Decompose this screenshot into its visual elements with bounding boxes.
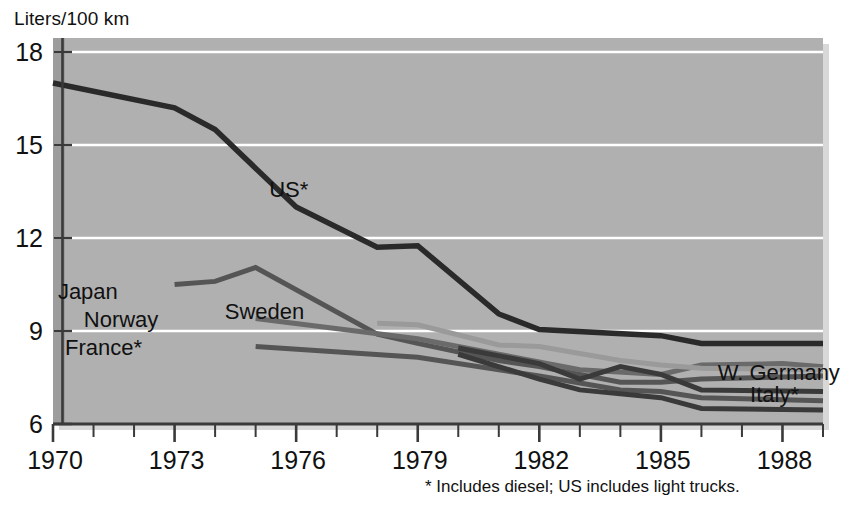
fuel-consumption-line-chart: 691215181970197319761979198219851988US*J… xyxy=(0,0,853,525)
series-label-france: France* xyxy=(65,335,142,360)
x-tick-labels: 1970197319761979198219851988 xyxy=(27,446,812,474)
series-label-sweden: Sweden xyxy=(225,299,305,324)
y-tick-label: 15 xyxy=(15,131,43,159)
chart-page: Liters/100 km 69121518197019731976197919… xyxy=(0,0,853,525)
y-tick-label: 9 xyxy=(29,317,43,345)
x-tick-label: 1988 xyxy=(757,446,813,474)
series-label-us: US* xyxy=(269,177,309,202)
x-tick-label: 1979 xyxy=(392,446,448,474)
x-tick-label: 1985 xyxy=(635,446,691,474)
x-tick-label: 1973 xyxy=(149,446,205,474)
x-tick-label: 1976 xyxy=(270,446,326,474)
series-label-norway: Norway xyxy=(84,307,159,332)
x-tick-label: 1982 xyxy=(514,446,570,474)
series-label-japan: Japan xyxy=(58,279,118,304)
chart-footnote: * Includes diesel; US includes light tru… xyxy=(425,477,740,497)
y-tick-label: 18 xyxy=(15,38,43,66)
series-label-italy: Italy* xyxy=(750,382,799,407)
x-tick-label: 1970 xyxy=(27,446,83,474)
y-tick-label: 6 xyxy=(29,410,43,438)
y-tick-label: 12 xyxy=(15,224,43,252)
y-tick-labels: 69121518 xyxy=(15,38,43,438)
